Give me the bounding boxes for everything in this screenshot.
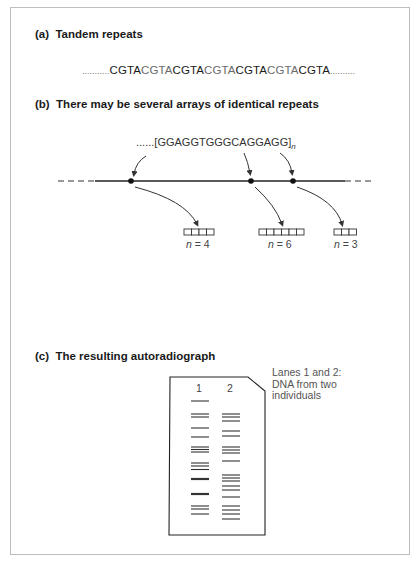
arrow-locus-3-to-array — [297, 187, 342, 224]
arrow-unit-to-locus-2 — [244, 153, 250, 173]
arrow-unit-to-locus-1 — [134, 156, 146, 174]
n-value: = 4 — [192, 238, 210, 250]
panel-c-heading: (c) The resulting autoradiograph — [35, 350, 215, 362]
n-value: = 6 — [274, 238, 292, 250]
repeat-array-n3 — [334, 229, 357, 235]
repeat-array-n6 — [259, 229, 304, 235]
lane-1-label: 1 — [196, 382, 202, 394]
caption-line-1: Lanes 1 and 2: — [272, 367, 341, 379]
lanes-caption: Lanes 1 and 2: DNA from two individuals — [272, 367, 341, 402]
arrow-unit-to-locus-3 — [280, 153, 292, 173]
array-count-label-1: n = 4 — [186, 238, 210, 250]
autoradiograph-film — [169, 377, 265, 535]
array-count-label-2: n = 6 — [268, 238, 292, 250]
caption-line-3: individuals — [272, 390, 341, 402]
array-locus-3 — [290, 178, 296, 184]
panel-c-title: The resulting autoradiograph — [55, 350, 215, 362]
arrow-locus-1-to-array — [135, 187, 197, 224]
lane-2-label: 2 — [227, 382, 233, 394]
chromosome-diagram — [0, 0, 420, 567]
panel-c-label: (c) — [35, 350, 49, 362]
repeat-array-n4 — [184, 229, 214, 235]
array-count-label-3: n = 3 — [334, 238, 358, 250]
array-locus-2 — [248, 178, 254, 184]
array-locus-1 — [128, 178, 134, 184]
arrow-locus-2-to-array — [255, 187, 282, 224]
n-value: = 3 — [340, 238, 358, 250]
